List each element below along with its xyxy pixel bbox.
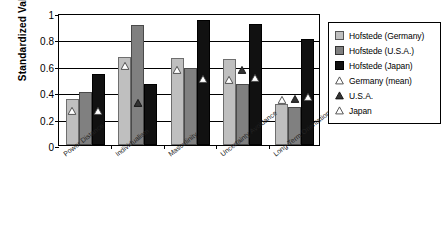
bar: [275, 104, 288, 145]
y-axis-title: Standardized Value: [17, 0, 28, 94]
legend-item-label: Japan: [349, 106, 372, 116]
x-tick-mark: [216, 145, 217, 149]
open-triangle-marker: [225, 76, 234, 85]
legend-item[interactable]: Hofstede (U.S.A.): [334, 43, 436, 58]
y-tick-mark: [55, 15, 59, 16]
open-triangle-marker: [68, 106, 77, 115]
open-triangle-marker: [173, 65, 182, 74]
chart-legend: Hofstede (Germany)Hofstede (U.S.A.)Hofst…: [328, 22, 441, 124]
filled-triangle-icon: [334, 90, 345, 101]
open-triangle-marker: [303, 93, 312, 102]
y-tick-label: 1: [48, 10, 54, 21]
swatch-mid-gray: [334, 45, 345, 56]
y-tick-mark: [55, 41, 59, 42]
x-tick-mark: [111, 145, 112, 149]
legend-item[interactable]: U.S.A.: [334, 88, 436, 103]
y-tick-label: 0.6: [40, 62, 54, 73]
y-tick-label: 0.2: [40, 115, 54, 126]
y-tick-label: 0: [48, 142, 54, 153]
y-tick-label: 0.4: [40, 89, 54, 100]
swatch-light-gray: [334, 30, 345, 41]
bar-group: [118, 15, 157, 145]
x-tick-mark: [269, 145, 270, 149]
open-triangle-marker: [199, 75, 208, 84]
open-triangle-marker: [120, 61, 129, 70]
legend-item-label: Hofstede (Germany): [349, 31, 424, 41]
y-tick-mark: [55, 121, 59, 122]
y-tick-mark: [55, 68, 59, 69]
legend-item[interactable]: Hofstede (Japan): [334, 58, 436, 73]
bar: [131, 25, 144, 145]
y-tick-mark: [55, 94, 59, 95]
legend-item-label: Hofstede (Japan): [349, 61, 413, 71]
y-tick-mark: [55, 147, 59, 148]
filled-triangle-marker: [238, 65, 247, 74]
x-tick-mark: [164, 145, 165, 149]
chart-figure: Standardized Value 00.20.40.60.81 Power …: [0, 0, 447, 230]
filled-triangle-marker: [290, 94, 299, 103]
bar: [144, 84, 157, 145]
bar: [223, 59, 236, 145]
legend-item-label: U.S.A.: [349, 91, 373, 101]
swatch-black: [334, 60, 345, 71]
legend-item[interactable]: Germany (mean): [334, 73, 436, 88]
legend-item[interactable]: Japan: [334, 103, 436, 118]
open-triangle-marker: [94, 106, 103, 115]
open-triangle-marker: [277, 96, 286, 105]
open-triangle-marker: [251, 73, 260, 82]
open-triangle-icon: [334, 105, 345, 116]
bar-group: [171, 15, 210, 145]
filled-triangle-marker: [133, 98, 142, 107]
y-tick-label: 0.8: [40, 36, 54, 47]
legend-item-label: Hofstede (U.S.A.): [349, 46, 414, 56]
legend-item[interactable]: Hofstede (Germany): [334, 28, 436, 43]
open-triangle-icon: [334, 75, 345, 86]
legend-item-label: Germany (mean): [349, 76, 412, 86]
